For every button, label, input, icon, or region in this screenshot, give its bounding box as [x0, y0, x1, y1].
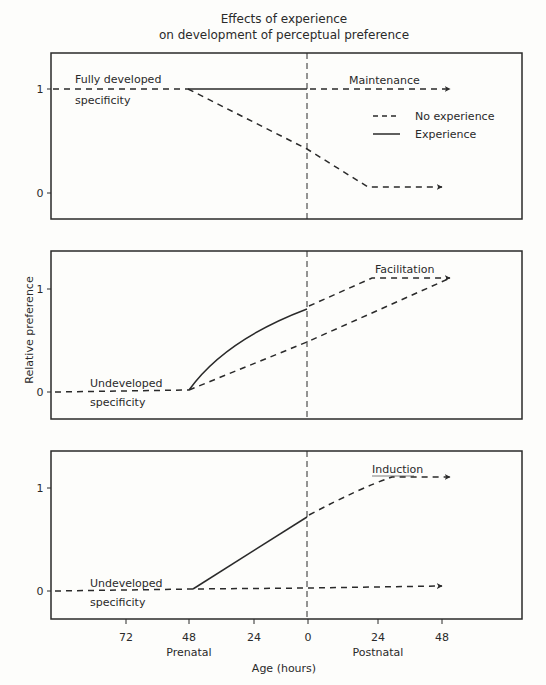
x-tick-label: 72 — [119, 631, 133, 644]
y-axis-label: Relative preference — [23, 276, 36, 384]
legend-experience: Experience — [415, 128, 477, 141]
panel-label-induction: Induction — [372, 463, 423, 476]
start-label-line2: specificity — [90, 396, 146, 409]
start-label-line2: specificity — [90, 596, 146, 609]
y-tick-label-1: 1 — [37, 283, 44, 296]
x-tick-label: 48 — [182, 631, 196, 644]
x-axis: 72 48 24 0 24 48 Prenatal Postnatal Age … — [119, 619, 449, 675]
experience-solid-curve — [189, 309, 307, 390]
start-label-line1: Fully developed — [75, 73, 161, 86]
y-tick-label-0: 0 — [37, 386, 44, 399]
start-label-line1: Undeveloped — [90, 377, 163, 390]
panel-induction: 1 0 Undeveloped specificity Induction — [37, 451, 523, 619]
x-tick-label: 48 — [435, 631, 449, 644]
prenatal-label: Prenatal — [166, 646, 211, 659]
legend: No experience Experience — [373, 110, 495, 141]
panel-maintenance: 1 0 Fully developed specificity Maintena… — [37, 53, 523, 219]
facilitation-experience-arrow — [309, 278, 450, 306]
x-tick-label: 0 — [305, 631, 312, 644]
x-tick-label: 24 — [371, 631, 385, 644]
no-experience-dashed-line — [189, 279, 448, 390]
y-tick-label-1: 1 — [37, 482, 44, 495]
induction-experience-arrow — [309, 477, 450, 515]
postnatal-label: Postnatal — [353, 646, 404, 659]
y-tick-label-1: 1 — [37, 83, 44, 96]
y-tick-label-0: 0 — [37, 585, 44, 598]
x-tick-label: 24 — [247, 631, 261, 644]
figure-title-line2: on development of perceptual preference — [159, 28, 409, 42]
figure: Effects of experience on development of … — [0, 0, 546, 685]
panel-label-maintenance: Maintenance — [349, 74, 420, 87]
no-experience-dashed-line — [188, 89, 442, 187]
panel-label-facilitation: Facilitation — [375, 263, 434, 276]
x-axis-label: Age (hours) — [252, 662, 316, 675]
start-label-line2: specificity — [75, 94, 131, 107]
legend-no-experience: No experience — [415, 110, 495, 123]
panel-frame — [51, 451, 522, 619]
y-tick-label-0: 0 — [37, 187, 44, 200]
figure-title-line1: Effects of experience — [221, 12, 348, 26]
baseline-dashed-line — [55, 390, 189, 392]
experience-solid-line — [193, 517, 307, 589]
panel-facilitation: 1 0 Undeveloped specificity Facilitation — [37, 251, 523, 419]
panel-frame — [51, 251, 522, 419]
start-label-line1: Undeveloped — [90, 577, 163, 590]
